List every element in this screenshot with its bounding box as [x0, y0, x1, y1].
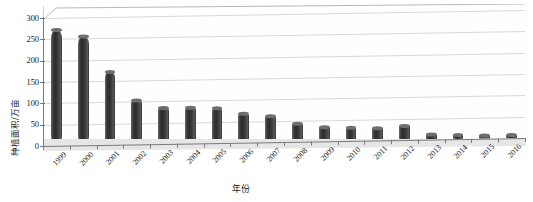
bar-cap [372, 126, 383, 130]
bar [158, 108, 169, 144]
x-tick-mark [498, 138, 499, 142]
bar-cap [51, 28, 62, 32]
x-axis-tick-labels: 1999200020012002200320042005200620072008… [0, 148, 533, 188]
bar-cap [506, 133, 517, 137]
bar-body [158, 108, 169, 144]
bar [78, 37, 89, 146]
bar [346, 128, 357, 141]
x-tick-mark [257, 142, 258, 146]
y-tick-mark [40, 39, 45, 40]
x-tick-mark [204, 143, 205, 147]
x-tick-mark [284, 142, 285, 146]
bar-body [212, 108, 223, 143]
bar-cap [426, 132, 437, 136]
y-tick-mark [40, 103, 45, 104]
bar [265, 116, 276, 142]
bar-cap [479, 133, 490, 137]
x-tick-mark [471, 139, 472, 143]
bar-body [105, 72, 116, 145]
y-tick-mark [40, 82, 45, 83]
chart-bars [43, 18, 525, 146]
bar-cap [319, 126, 330, 130]
bar [131, 101, 142, 145]
bar-body [399, 126, 410, 140]
y-axis-title: 种植面积/万亩 [8, 56, 20, 156]
bar-cap [265, 114, 276, 118]
chart-container: 050100150200250300 种植面积/万亩 1999200020012… [0, 0, 533, 202]
bar-body [78, 37, 89, 146]
bar-cap [131, 99, 142, 103]
x-axis-title: 年份 [232, 182, 250, 195]
bar [185, 108, 196, 144]
y-tick-mark [40, 61, 45, 62]
x-tick-mark [418, 140, 419, 144]
bar-cap [212, 106, 223, 110]
y-tick-mark [40, 18, 45, 19]
bar-cap [158, 106, 169, 110]
x-tick-mark [338, 141, 339, 145]
y-tick-mark [40, 125, 45, 126]
x-tick-mark [230, 143, 231, 147]
x-tick-mark [391, 140, 392, 144]
bar-cap [105, 70, 116, 74]
bar-body [131, 101, 142, 145]
bar [372, 128, 383, 140]
bar [238, 114, 249, 143]
bar [399, 126, 410, 140]
x-tick-mark [445, 139, 446, 143]
y-tick-label: 250 [6, 35, 39, 43]
bar-cap [185, 106, 196, 110]
bar-cap [292, 122, 303, 126]
bar-cap [238, 112, 249, 116]
y-tick-label: 300 [6, 14, 39, 22]
bar-cap [78, 35, 89, 39]
x-tick-mark [525, 138, 526, 142]
bar-cap [346, 126, 357, 130]
bar [51, 30, 62, 146]
bar-body [51, 30, 62, 146]
bar [105, 72, 116, 145]
bar-body [238, 114, 249, 143]
y-tick-mark [40, 146, 45, 147]
x-tick-mark [364, 141, 365, 145]
bar [212, 108, 223, 143]
bar-body [185, 108, 196, 144]
bar-cap [399, 124, 410, 128]
bar-cap [453, 133, 464, 137]
x-tick-mark [311, 142, 312, 146]
bar-body [265, 116, 276, 142]
